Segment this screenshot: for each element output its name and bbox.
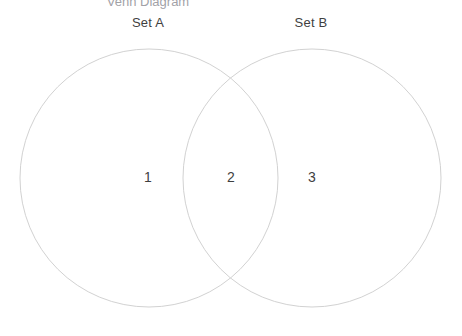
venn-region-count-a-only: 1 [144,169,152,185]
venn-region-count-b-only: 3 [308,169,316,185]
venn-diagram-figure: Venn Diagram Set A Set B 1 2 3 [0,0,462,336]
venn-canvas [0,0,462,336]
set-label-b: Set B [295,15,328,30]
venn-region-count-intersection: 2 [227,169,235,185]
set-label-a: Set A [132,15,164,30]
